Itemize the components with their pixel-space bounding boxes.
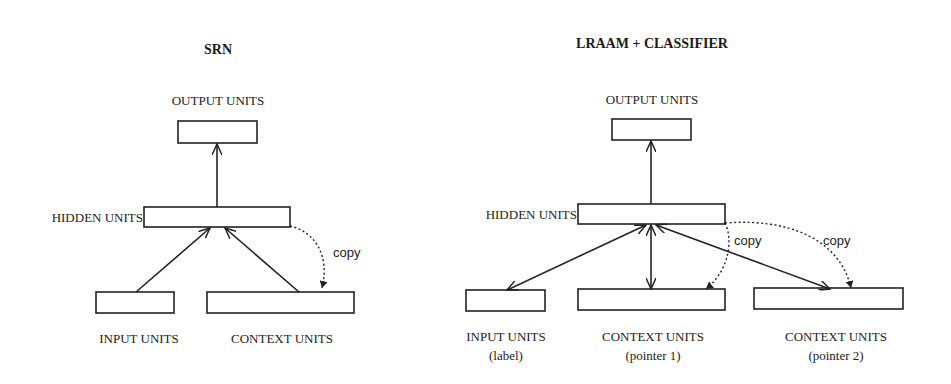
lraam-context1-label: CONTEXT UNITS — [602, 329, 704, 344]
srn-output-units-box — [178, 121, 257, 143]
srn-output-label: OUTPUT UNITS — [172, 93, 265, 108]
lraam-context2-units-box — [754, 288, 903, 309]
srn-hidden-label: HIDDEN UNITS — [52, 210, 143, 225]
lraam-copy1-dotted-arrow — [706, 223, 729, 289]
lraam-input-units-box — [466, 290, 545, 311]
srn-copy-dotted-arrow — [290, 226, 324, 288]
lraam-copy2-label: copy — [823, 233, 851, 248]
lraam-hidden-label: HIDDEN UNITS — [486, 207, 577, 222]
lraam-context2-label: CONTEXT UNITS — [785, 329, 887, 344]
srn-context-label: CONTEXT UNITS — [231, 331, 333, 346]
lraam-copy1-label: copy — [734, 233, 762, 248]
lraam-context1-sublabel: (pointer 1) — [625, 348, 680, 363]
lraam-context1-units-box — [578, 289, 725, 310]
lraam-hidden-units-box — [578, 204, 725, 224]
lraam-hidden-input-bidirectional-arrow — [507, 225, 646, 290]
lraam-classifier-diagram: LRAAM + CLASSIFIER OUTPUT UNITS HIDDEN U… — [466, 36, 903, 363]
lraam-input-label: INPUT UNITS — [466, 329, 546, 344]
srn-input-label: INPUT UNITS — [99, 331, 179, 346]
srn-input-units-box — [96, 292, 174, 313]
lraam-output-units-box — [612, 119, 691, 140]
srn-hidden-units-box — [144, 207, 290, 227]
lraam-input-sublabel: (label) — [489, 348, 523, 363]
lraam-context2-sublabel: (pointer 2) — [808, 348, 863, 363]
srn-diagram: SRN OUTPUT UNITS HIDDEN UNITS INPUT UNIT… — [52, 42, 361, 346]
lraam-title: LRAAM + CLASSIFIER — [576, 36, 729, 51]
srn-copy-label: copy — [333, 245, 361, 260]
srn-title: SRN — [204, 42, 232, 57]
srn-context-units-box — [207, 292, 354, 313]
lraam-output-label: OUTPUT UNITS — [606, 92, 699, 107]
network-diagrams: SRN OUTPUT UNITS HIDDEN UNITS INPUT UNIT… — [0, 0, 951, 384]
srn-input-to-hidden-arrow — [136, 228, 210, 292]
srn-context-to-hidden-arrow — [225, 228, 299, 292]
